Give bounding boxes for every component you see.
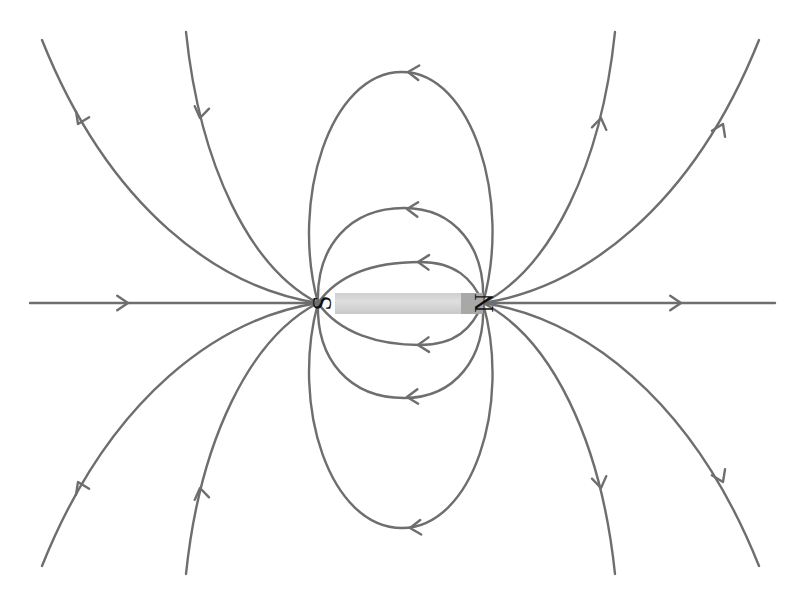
field-line-mid-lower bbox=[318, 303, 483, 398]
field-line-outer-lower-left bbox=[186, 303, 318, 574]
field-line-far-lower-right bbox=[483, 303, 759, 566]
field-line-outer-lower-left-arrow-0 bbox=[195, 488, 209, 500]
bar-magnet bbox=[335, 293, 483, 314]
field-line-far-lower-right-arrow-0 bbox=[712, 469, 725, 482]
field-line-far-upper-right-arrow-0 bbox=[712, 124, 725, 137]
field-line-large-lower bbox=[309, 303, 493, 528]
field-line-far-lower-left bbox=[42, 303, 318, 566]
south-pole-label: S bbox=[307, 295, 337, 310]
field-svg: S N bbox=[0, 0, 805, 594]
north-pole-label: N bbox=[469, 293, 499, 313]
magnetic-field-diagram: S N bbox=[0, 0, 805, 594]
field-line-far-upper-right bbox=[483, 40, 759, 303]
field-line-far-upper-left bbox=[42, 40, 318, 303]
field-line-outer-upper-left bbox=[186, 32, 318, 303]
field-line-outer-upper-right bbox=[483, 32, 615, 303]
field-line-large-upper bbox=[309, 72, 493, 303]
field-line-outer-upper-left-arrow-0 bbox=[195, 106, 209, 118]
magnet-body bbox=[335, 293, 483, 314]
field-line-outer-lower-right bbox=[483, 303, 615, 574]
field-line-mid-upper bbox=[318, 208, 483, 303]
